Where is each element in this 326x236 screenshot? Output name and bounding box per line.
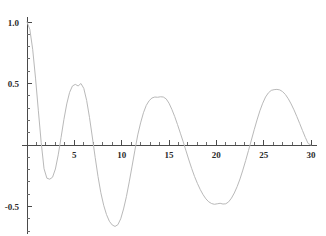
x-tick-label: 15 — [165, 150, 175, 160]
plot-background — [0, 0, 326, 236]
y-tick-label: 0.5 — [8, 79, 20, 89]
x-tick-label: 30 — [307, 150, 317, 160]
plot-figure: 510152025301.00.5-0.5 — [0, 0, 326, 236]
y-tick-label: 1.0 — [8, 18, 20, 28]
x-tick-label: 5 — [72, 150, 77, 160]
y-tick-label: -0.5 — [5, 202, 20, 212]
plot-canvas: 510152025301.00.5-0.5 — [0, 0, 326, 236]
x-tick-label: 25 — [259, 150, 269, 160]
x-tick-label: 10 — [117, 150, 127, 160]
x-tick-label: 20 — [212, 150, 222, 160]
